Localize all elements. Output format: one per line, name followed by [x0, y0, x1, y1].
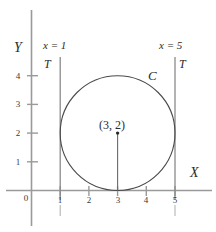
tangent-marker-left: T — [44, 58, 51, 70]
x-tick-label-4: 4 — [140, 196, 152, 205]
y-axis-label: Y — [14, 41, 22, 55]
x-tick-label-3: 3 — [112, 196, 124, 205]
tangent-marker-right: T — [179, 58, 186, 70]
center-coordinate-label: (3, 2) — [99, 119, 125, 131]
y-tick-label-4: 4 — [12, 72, 24, 81]
y-tick-label-3: 3 — [12, 100, 24, 109]
x-axis-label: X — [190, 166, 199, 180]
origin-label: 0 — [20, 194, 32, 203]
y-tick-label-1: 1 — [12, 158, 24, 167]
x-tick-label-2: 2 — [83, 196, 95, 205]
diagram-canvas — [0, 0, 216, 232]
geometry-figure: Y X 0 1 2 3 4 5 1 2 3 4 x = 1 T x = 5 T … — [0, 0, 216, 232]
x-tick-label-1: 1 — [54, 196, 66, 205]
tangent-equation-x5: x = 5 — [159, 40, 182, 51]
y-axis-ticks — [27, 76, 38, 162]
circle-label: C — [148, 69, 157, 82]
y-tick-label-2: 2 — [12, 129, 24, 138]
tangent-equation-x1: x = 1 — [43, 40, 66, 51]
x-tick-label-5: 5 — [169, 196, 181, 205]
